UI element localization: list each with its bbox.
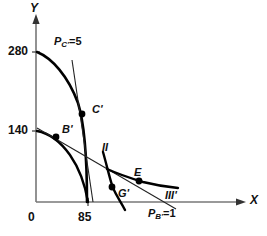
x-axis [36, 198, 246, 205]
y-axis-label: Y [30, 2, 38, 14]
label-price-c-prime: PC'=5 [54, 36, 82, 47]
label-e: E [134, 167, 141, 178]
point-marker-b-prime [53, 134, 60, 141]
curve-ppf-lower [37, 131, 88, 202]
label-g-prime: G' [118, 188, 129, 199]
y-tick-label-280: 280 [0, 45, 28, 57]
economics-ppf-diagram: Y X 280 140 0 85 C' B' G' E II III' PC'=… [0, 0, 267, 236]
label-curve-iii: III' [165, 190, 177, 201]
price-b-subscript: B' [155, 212, 163, 221]
label-b-prime: B' [62, 124, 73, 135]
origin-label: 0 [28, 211, 35, 223]
point-marker-c-prime [79, 111, 86, 118]
x-tick-label-85: 85 [78, 211, 91, 223]
point-marker-g-prime [109, 184, 116, 191]
y-axis [32, 14, 39, 202]
y-tick-label-140: 140 [0, 124, 28, 136]
x-axis-label: X [250, 194, 258, 206]
point-marker-e [136, 178, 143, 185]
curve-indifference-iii [107, 169, 178, 188]
price-b-value: =1 [163, 207, 176, 219]
label-c-prime: C' [92, 104, 103, 115]
label-curve-ii: II [102, 142, 108, 153]
price-c-value: =5 [69, 35, 82, 47]
diagram-canvas [0, 0, 267, 236]
price-c-subscript: C' [61, 40, 69, 49]
label-price-b-prime: PB'=1 [148, 208, 176, 219]
